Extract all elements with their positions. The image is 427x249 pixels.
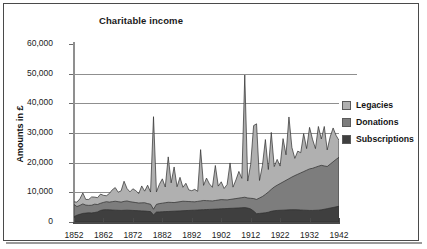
- x-tick-label: 1872: [123, 230, 142, 240]
- legend-swatch-icon: [342, 101, 351, 110]
- x-tick-label: 1882: [153, 230, 172, 240]
- plot-area: [74, 44, 339, 222]
- y-tick-label: 50,000: [4, 68, 53, 78]
- x-tick-label: 1852: [65, 230, 84, 240]
- chart-legend: LegaciesDonationsSubscriptions: [342, 100, 414, 151]
- x-tick-label: 1862: [94, 230, 113, 240]
- y-tick-label: 0: [4, 216, 53, 226]
- x-tick-label: 1932: [300, 230, 319, 240]
- x-tick-mark: [221, 218, 222, 223]
- x-tick-mark: [162, 218, 163, 223]
- x-tick-label: 1912: [241, 230, 260, 240]
- x-tick-mark: [280, 218, 281, 223]
- legend-swatch-icon: [342, 118, 351, 127]
- legend-item-donations[interactable]: Donations: [342, 117, 414, 127]
- x-tick-mark: [103, 218, 104, 223]
- legend-label: Donations: [356, 117, 398, 127]
- legend-label: Legacies: [356, 100, 393, 110]
- y-tick-label: 20,000: [4, 157, 53, 167]
- legend-label: Subscriptions: [356, 134, 414, 144]
- y-tick-label: 60,000: [4, 38, 53, 48]
- x-tick-label: 1892: [182, 230, 201, 240]
- legend-item-legacies[interactable]: Legacies: [342, 100, 414, 110]
- x-tick-label: 1902: [212, 230, 231, 240]
- legend-swatch-icon: [342, 135, 351, 144]
- x-tick-label: 1942: [330, 230, 349, 240]
- chart-frame: Charitable income Amounts in £ 010,00020…: [3, 3, 419, 241]
- stacked-area-series: [74, 44, 339, 222]
- y-tick-label: 30,000: [4, 127, 53, 137]
- x-tick-mark: [310, 218, 311, 223]
- y-tick-label: 40,000: [4, 97, 53, 107]
- x-tick-label: 1922: [271, 230, 290, 240]
- x-tick-mark: [251, 218, 252, 223]
- x-tick-mark: [133, 218, 134, 223]
- chart-title: Charitable income: [99, 15, 183, 26]
- x-tick-mark: [339, 218, 340, 223]
- x-tick-mark: [74, 218, 75, 223]
- legend-item-subscriptions[interactable]: Subscriptions: [342, 134, 414, 144]
- x-tick-mark: [192, 218, 193, 223]
- x-axis-line: [73, 222, 340, 224]
- y-tick-label: 10,000: [4, 186, 53, 196]
